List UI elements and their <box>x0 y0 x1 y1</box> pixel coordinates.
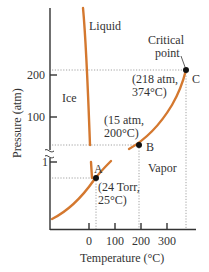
region-label-liquid: Liquid <box>89 20 121 33</box>
region-label-ice: Ice <box>62 92 77 105</box>
point-b-coords-line2: 200°C) <box>104 127 139 140</box>
point-a-letter: A <box>94 163 103 176</box>
point-c-coords-line2: 374°C) <box>132 86 167 99</box>
x-axis-title: Temperature (°C) <box>80 252 164 265</box>
critical-point-leader <box>181 56 185 67</box>
melting-curve-lower <box>91 162 92 178</box>
y-tick-label-1: 1 <box>42 156 48 168</box>
x-tick-label-0: 0 <box>86 235 92 247</box>
point-a-coords-line2: 25°C) <box>98 194 127 207</box>
point-c-marker <box>183 67 189 73</box>
y-axis-title: Pressure (atm) <box>10 88 25 158</box>
x-tick-label-100: 100 <box>106 235 124 247</box>
y-tick-label-200: 200 <box>27 69 45 81</box>
point-b-marker <box>136 142 142 148</box>
point-b-letter: B <box>146 141 154 154</box>
y-tick-label-100: 100 <box>27 111 45 123</box>
x-tick-label-200: 200 <box>132 235 150 247</box>
point-c-letter: C <box>192 73 200 86</box>
x-tick-label-300: 300 <box>158 235 176 247</box>
region-label-vapor: Vapor <box>148 162 177 175</box>
critical-point-label-line2: point <box>155 47 180 60</box>
